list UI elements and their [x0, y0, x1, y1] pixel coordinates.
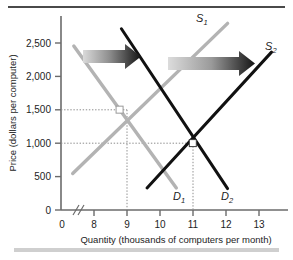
supply-demand-chart: 0 500 1,000 1,500 2,000 2,500 0 8 9 10 1… [0, 0, 293, 260]
curve-label-d1: D 1 [173, 190, 185, 205]
curve-label-s2-sub: 2 [272, 46, 278, 55]
axes-group [61, 16, 288, 210]
y-axis-tick-labels: 0 500 1,000 1,500 2,000 2,500 [26, 38, 51, 216]
x-tick-label-0: 0 [59, 219, 65, 230]
x-tick-label-9: 9 [124, 219, 130, 230]
x-axis-tick-labels: 0 8 9 10 11 12 13 [59, 219, 265, 230]
x-axis-title: Quantity (thousands of computers per mon… [80, 234, 271, 245]
y-axis-title: Price (dollars per computer) [7, 54, 18, 171]
supply-curve-s2 [147, 52, 271, 188]
curve-label-d2-text: D [221, 190, 229, 202]
x-tick-label-13: 13 [253, 219, 265, 230]
x-axis-ticks [94, 210, 259, 216]
curve-label-d2-sub: 2 [228, 196, 234, 205]
y-tick-label-2000: 2,000 [26, 71, 51, 82]
y-tick-label-1500: 1,500 [26, 104, 51, 115]
equilibrium-marker-2 [189, 140, 196, 147]
x-tick-label-11: 11 [188, 219, 199, 230]
x-tick-label-8: 8 [91, 219, 97, 230]
figure-container: 0 500 1,000 1,500 2,000 2,500 0 8 9 10 1… [0, 0, 293, 260]
x-tick-label-10: 10 [154, 219, 166, 230]
equilibrium-marker-1 [116, 106, 123, 113]
supply-shift-arrow [168, 51, 255, 76]
curve-label-s1: S 1 [196, 12, 208, 27]
y-axis-ticks [55, 43, 61, 210]
curves-group [73, 23, 272, 188]
y-tick-label-2500: 2,500 [26, 38, 51, 49]
y-tick-label-500: 500 [34, 171, 51, 182]
y-tick-label-1000: 1,000 [26, 138, 51, 149]
curve-label-s1-sub: 1 [204, 18, 208, 27]
y-tick-label-0: 0 [45, 205, 51, 216]
equilibrium-markers-group [116, 106, 196, 146]
curve-label-d1-sub: 1 [181, 196, 185, 205]
curve-label-d2: D 2 [221, 190, 234, 205]
curve-label-d1-text: D [173, 190, 181, 202]
x-tick-label-12: 12 [220, 219, 232, 230]
supply-shift-arrow-shape [168, 51, 255, 76]
